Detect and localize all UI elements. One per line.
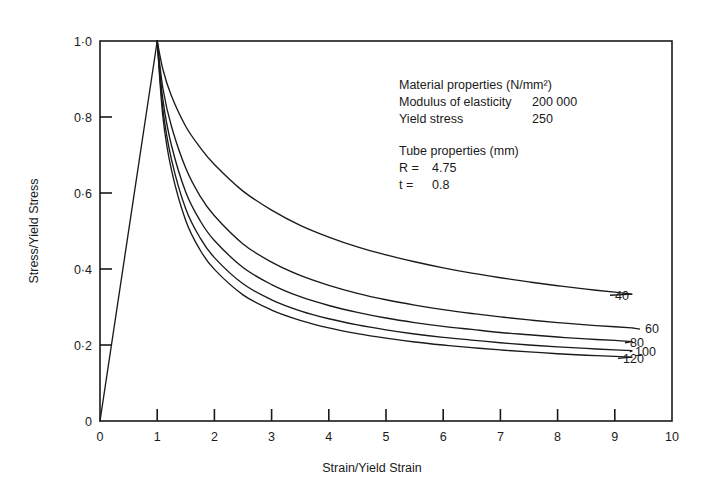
elastic-branch-line [100,41,157,421]
x-tick-labels: 0 1 2 3 4 5 6 7 8 9 10 [97,430,679,444]
annotation-radius-value: 4.75 [432,161,456,175]
x-tick-label: 4 [325,430,332,444]
x-tick-label: 10 [665,430,679,444]
annotation-thickness-label: t = [399,178,413,192]
leader-line-60 [632,328,640,329]
plot-frame [100,41,672,421]
y-tick-label: 0·6 [74,187,92,201]
curve-60 [157,41,632,328]
y-tick-label: 0·2 [74,339,92,353]
annotation-yield-stress-value: 250 [532,112,553,126]
curve-80 [157,41,632,342]
y-axis-ticks [100,117,112,345]
y-tick-label: 0·8 [74,111,92,125]
x-tick-label: 3 [268,430,275,444]
x-tick-label: 5 [383,430,390,444]
x-tick-label: 1 [154,430,161,444]
chart-page: 1·0 0·8 0·6 0·4 0·2 0 0 1 2 3 4 5 6 7 8 … [0,0,701,500]
x-axis-ticks [157,409,615,421]
curve-label-60: 60 [645,322,659,336]
x-axis-title: Strain/Yield Strain [322,461,422,475]
x-tick-label: 6 [440,430,447,444]
stress-strain-chart: 1·0 0·8 0·6 0·4 0·2 0 0 1 2 3 4 5 6 7 8 … [0,0,701,500]
annotation-modulus-label: Modulus of elasticity [399,95,512,109]
curve-40 [157,41,632,294]
y-tick-label: 0·4 [74,263,92,277]
annotation-thickness-value: 0.8 [432,178,449,192]
annotation-modulus-value: 200 000 [532,95,577,109]
y-tick-labels: 1·0 0·8 0·6 0·4 0·2 0 [74,35,92,429]
y-axis-title: Stress/Yield Stress [27,178,41,283]
curve-100 [157,41,632,351]
curve-label-40: 40 [615,289,629,303]
curve-label-120: 120 [623,352,644,366]
x-tick-label: 0 [97,430,104,444]
y-tick-label: 1·0 [74,35,92,49]
x-tick-label: 8 [554,430,561,444]
x-tick-label: 9 [611,430,618,444]
annotation-yield-stress-label: Yield stress [399,112,463,126]
x-tick-label: 7 [497,430,504,444]
annotation-block: Material properties (N/mm²) Modulus of e… [399,78,577,192]
annotation-radius-label: R = [399,161,419,175]
annotation-tube-properties: Tube properties (mm) [399,144,519,158]
x-tick-label: 2 [211,430,218,444]
curve-120 [157,41,632,357]
y-tick-label: 0 [85,415,92,429]
annotation-material-properties: Material properties (N/mm²) [399,78,552,92]
